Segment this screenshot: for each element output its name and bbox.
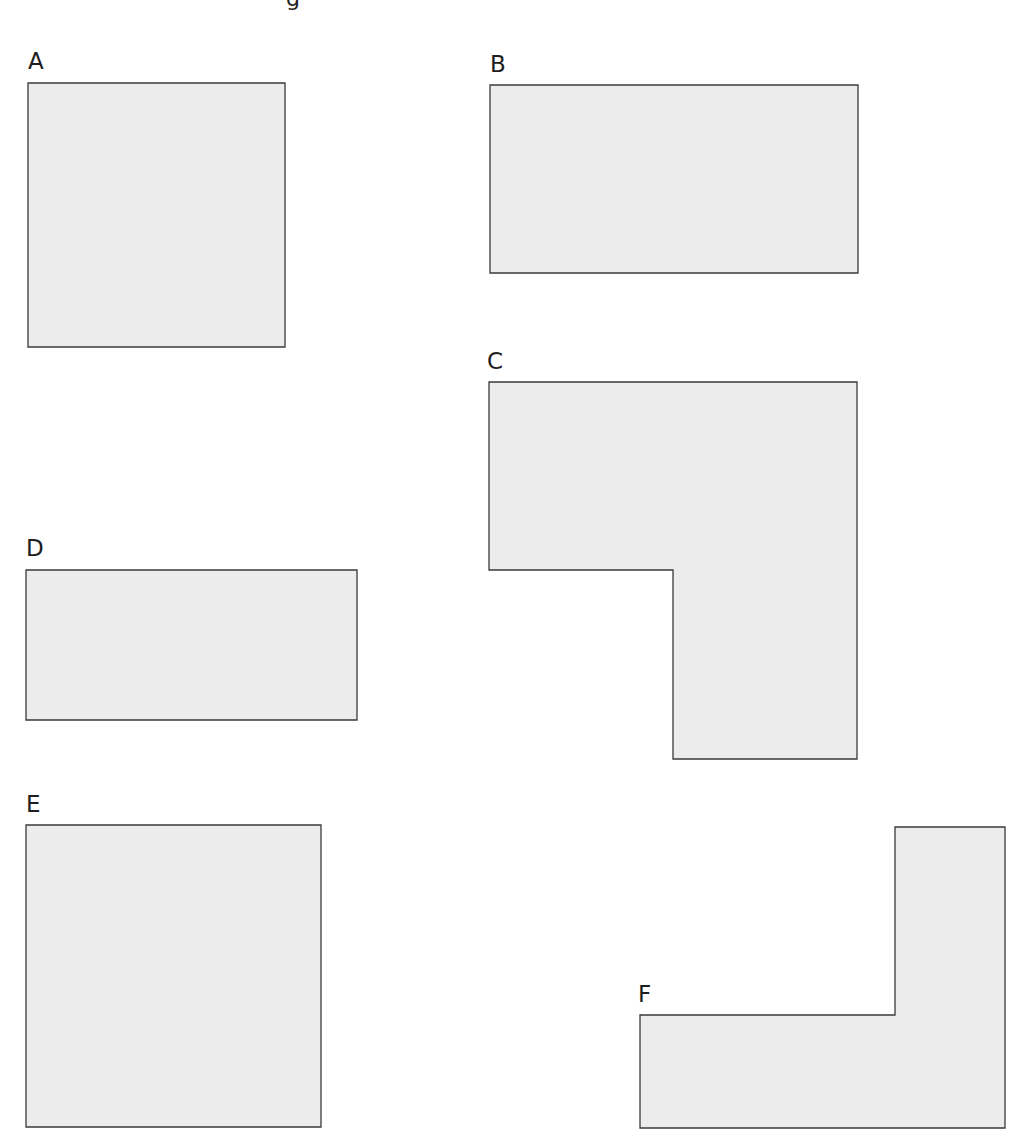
shape-e [26, 825, 321, 1127]
shape-f [640, 827, 1005, 1128]
label-a: A [28, 50, 44, 73]
shapes-canvas [0, 0, 1022, 1147]
shape-d [26, 570, 357, 720]
shape-b [490, 85, 858, 273]
label-d: D [26, 537, 44, 560]
shape-a [28, 83, 285, 347]
shape-c [489, 382, 857, 759]
label-c: C [487, 350, 503, 373]
label-b: B [490, 53, 506, 76]
label-e: E [26, 793, 41, 816]
label-f: F [638, 983, 651, 1006]
